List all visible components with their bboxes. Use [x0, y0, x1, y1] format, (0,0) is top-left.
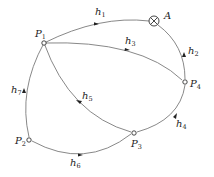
label-h1: h1	[95, 6, 106, 19]
node-p4	[183, 80, 187, 84]
node-p1	[42, 41, 46, 45]
node-a-cross-circle-icon	[149, 16, 159, 26]
label-h4: h4	[176, 118, 187, 131]
edge-h6	[32, 134, 131, 154]
edge-h3	[44, 43, 182, 80]
edge-h5	[44, 43, 131, 132]
label-p3: P3	[130, 138, 142, 151]
label-h3: h3	[125, 35, 136, 48]
arrow-h7-icon	[22, 88, 26, 93]
edge-h7	[26, 43, 44, 137]
arrow-h1-icon	[94, 22, 99, 25]
label-h6: h6	[70, 157, 81, 170]
label-p2: P2	[14, 135, 26, 148]
arrow-h2-icon	[182, 52, 186, 57]
node-p3	[132, 131, 136, 135]
label-h5: h5	[82, 90, 93, 103]
label-h2: h2	[188, 45, 199, 58]
label-p4: P4	[189, 78, 201, 91]
network-diagram: P1 A P4 P3 P2 h1 h2 h3 h4 h5 h6 h7	[0, 0, 214, 177]
node-p2	[27, 138, 31, 142]
label-h7: h7	[11, 84, 22, 97]
label-a: A	[163, 10, 171, 21]
label-p1: P1	[34, 28, 46, 41]
